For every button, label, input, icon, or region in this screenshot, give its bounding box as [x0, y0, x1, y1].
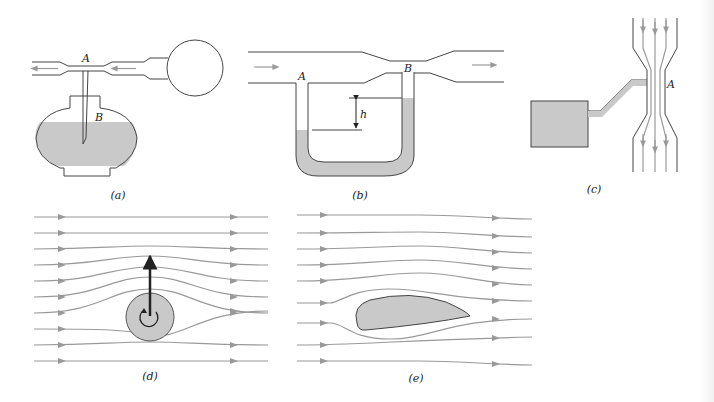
streamline-e-1-arrow-1: [320, 212, 328, 218]
streamline-e-1-arrow-2: [492, 215, 500, 221]
streamline-e-3-arrow-1: [320, 246, 328, 252]
label-b-h: h: [360, 108, 367, 121]
panel-c-constricted-flow: A (c): [531, 18, 677, 196]
venturi-bottom-right: [414, 73, 504, 82]
label-a-point-a: A: [81, 52, 90, 65]
caption-a: (a): [110, 189, 125, 202]
streamline-d-5-arrow-2: [230, 278, 238, 284]
streamline-d-4-arrow-1: [58, 262, 66, 268]
streamline-d-10-arrow-1: [58, 358, 66, 364]
caption-d: (d): [142, 370, 158, 383]
caption-b: (b): [352, 189, 368, 202]
streamline-e-4-arrow-2: [492, 265, 500, 271]
label-c-point-a: A: [666, 78, 675, 91]
streamline-e-8-arrow-2: [492, 335, 500, 341]
channel-left-wall: [633, 18, 647, 172]
manometer-liquid: [296, 98, 414, 176]
caption-e: (e): [408, 372, 423, 385]
side-tube-liquid: [588, 80, 647, 117]
label-b-point-b: B: [403, 62, 412, 75]
fluid-dynamics-figure: A B (a) h A B (b): [0, 0, 714, 402]
panel-a-atomizer: A B (a): [32, 40, 223, 202]
airfoil-wing: [356, 295, 470, 330]
streamline-d-3-arrow-1: [58, 246, 66, 252]
streamline-e-3-arrow-2: [492, 249, 500, 255]
streamline-e-9-arrow-1: [320, 358, 328, 364]
streamline-d-4-arrow-2: [230, 262, 238, 268]
streamline-d-1-arrow-2: [230, 214, 238, 220]
streamline-d-2-arrow-1: [58, 230, 66, 236]
streamline-e-7-arrow-2: [492, 316, 500, 322]
streamline-e-7-arrow-1: [320, 320, 328, 326]
panel-d-spinning-cylinder: (d): [34, 214, 268, 383]
tank-liquid: [531, 101, 588, 147]
atomizer-tube-bottom: [32, 71, 168, 79]
streamline-d-9-arrow-1: [58, 342, 66, 348]
page-edge-shadow: [700, 0, 714, 402]
streamline-d-2-arrow-2: [230, 230, 238, 236]
streamline-d-3-arrow-2: [230, 246, 238, 252]
manometer-inner: [308, 72, 402, 162]
channel-right-wall: [665, 18, 677, 172]
panel-e-airfoil: (e): [297, 212, 532, 385]
streamline-d-9-arrow-2: [230, 342, 238, 348]
streamline-d-8-arrow-1: [58, 326, 66, 332]
streamline-e-8-arrow-1: [320, 342, 328, 348]
venturi-top-wall: [248, 51, 504, 61]
streamline-e-6-arrow-1: [320, 300, 328, 306]
caption-c: (c): [587, 183, 602, 196]
streamline-e-2-arrow-2: [492, 233, 500, 239]
streamline-d-10-arrow-2: [230, 358, 238, 364]
streamline-e-6-arrow-2: [492, 298, 500, 304]
atomizer-tube-top: [32, 58, 168, 66]
streamline-e-5-arrow-1: [320, 278, 328, 284]
label-a-point-b: B: [94, 111, 103, 124]
label-b-point-a: A: [297, 70, 306, 83]
streamline-e-9-arrow-2: [492, 361, 500, 367]
streamline-e-2-arrow-1: [320, 230, 328, 236]
streamline-d-5-arrow-1: [58, 278, 66, 284]
streamline-e-4-arrow-1: [320, 262, 328, 268]
panel-b-venturi-manometer: h A B (b): [248, 51, 504, 202]
streamline-d-1-arrow-1: [58, 214, 66, 220]
squeeze-bulb: [167, 40, 223, 96]
venturi-bottom-mid: [308, 73, 402, 83]
